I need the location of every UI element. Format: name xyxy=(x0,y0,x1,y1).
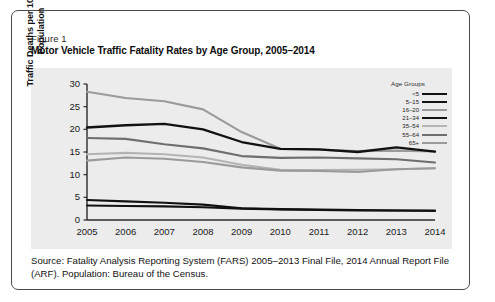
legend-entry-swatch xyxy=(422,109,447,111)
legend-entry: 55–64 xyxy=(369,130,447,138)
series-line xyxy=(87,205,435,210)
legend-entry-label: 65+ xyxy=(409,140,419,146)
legend-entry-swatch xyxy=(422,125,447,127)
legend-title: Age Groups xyxy=(369,80,447,87)
legend-entry-swatch xyxy=(422,117,447,119)
figure-title: Motor Vehicle Traffic Fatality Rates by … xyxy=(31,45,315,56)
legend-entries: <55–1516–2021–3435–5455–6465+ xyxy=(369,90,447,147)
legend-entry: 21–34 xyxy=(369,114,447,122)
legend-entry-swatch xyxy=(422,142,447,144)
legend-entry-label: 21–34 xyxy=(402,115,419,121)
legend-entry: 5–15 xyxy=(369,98,447,106)
chart-plot-panel: Traffic Deaths per 100,000 Population 05… xyxy=(31,68,452,249)
legend-entry-label: <5 xyxy=(412,91,419,97)
legend-entry-label: 16–20 xyxy=(402,107,419,113)
legend-entry-swatch xyxy=(422,93,447,95)
legend-entry-swatch xyxy=(422,134,447,136)
chart-legend: Age Groups <55–1516–2021–3435–5455–6465+ xyxy=(369,80,447,147)
legend-entry-swatch xyxy=(422,101,447,103)
source-note: Source: Fatality Analysis Reporting Syst… xyxy=(31,254,451,280)
legend-entry-label: 55–64 xyxy=(402,132,419,138)
legend-entry: <5 xyxy=(369,90,447,98)
series-line xyxy=(87,153,435,170)
legend-entry: 16–20 xyxy=(369,106,447,114)
legend-entry-label: 5–15 xyxy=(406,99,419,105)
legend-entry-label: 35–54 xyxy=(402,123,419,129)
figure-card: Figure 1 Motor Vehicle Traffic Fatality … xyxy=(11,10,470,290)
legend-entry: 65+ xyxy=(369,139,447,147)
legend-entry: 35–54 xyxy=(369,122,447,130)
